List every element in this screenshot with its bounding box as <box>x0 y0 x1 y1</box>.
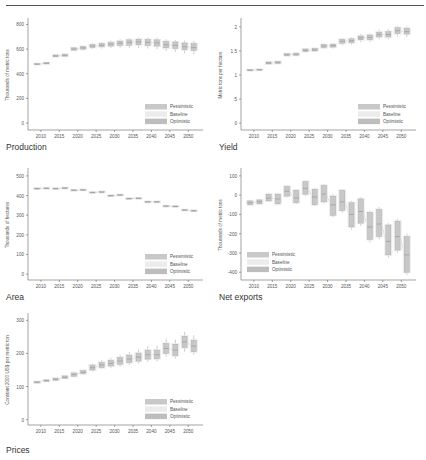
box-6 <box>301 180 312 197</box>
net_exports-plot: -400-300-200-1000100Thousands of metric … <box>213 160 426 295</box>
box-6 <box>88 363 99 371</box>
svg-text:2035: 2035 <box>128 134 139 139</box>
svg-text:Thousands of metric tons: Thousands of metric tons <box>218 199 223 251</box>
svg-text:Baseline: Baseline <box>272 260 290 265</box>
svg-text:2020: 2020 <box>73 429 84 434</box>
caption-prices: Prices <box>6 445 30 455</box>
box-5 <box>292 52 300 56</box>
top-rule <box>6 5 424 6</box>
box-6 <box>88 43 99 49</box>
svg-text:Thousands of metric tons: Thousands of metric tons <box>5 49 10 101</box>
box-16 <box>181 332 192 352</box>
svg-text:Constant 2000 US$ per metric t: Constant 2000 US$ per metric ton <box>5 335 10 405</box>
box-7 <box>311 48 319 52</box>
svg-text:0: 0 <box>21 418 24 423</box>
svg-text:2015: 2015 <box>54 429 65 434</box>
box-0 <box>33 187 44 190</box>
box-12 <box>144 346 155 362</box>
box-4 <box>70 189 81 192</box>
box-9 <box>329 43 337 49</box>
box-14 <box>162 339 173 357</box>
svg-text:Metric tons per hectare: Metric tons per hectare <box>218 51 223 98</box>
svg-text:100: 100 <box>229 174 237 179</box>
svg-text:2050: 2050 <box>396 284 407 289</box>
svg-text:2010: 2010 <box>36 429 47 434</box>
box-2 <box>52 54 63 58</box>
svg-text:2040: 2040 <box>359 134 370 139</box>
box-17 <box>190 335 198 355</box>
box-3 <box>274 193 282 205</box>
box-0 <box>33 381 44 384</box>
svg-text:2025: 2025 <box>304 134 315 139</box>
svg-text:2: 2 <box>234 25 237 30</box>
svg-text:2050: 2050 <box>183 284 194 289</box>
svg-text:2040: 2040 <box>146 134 157 139</box>
svg-text:2030: 2030 <box>109 284 120 289</box>
svg-text:2050: 2050 <box>183 134 194 139</box>
box-15 <box>171 40 179 52</box>
box-11 <box>135 349 143 363</box>
svg-text:2020: 2020 <box>73 284 84 289</box>
svg-text:Optimistic: Optimistic <box>272 267 293 272</box>
svg-text:2045: 2045 <box>165 429 176 434</box>
box-14 <box>162 205 173 208</box>
box-5 <box>292 189 300 204</box>
svg-text:Optimistic: Optimistic <box>383 119 404 124</box>
box-15 <box>171 205 179 208</box>
svg-text:2030: 2030 <box>322 284 333 289</box>
box-15 <box>384 223 392 258</box>
svg-text:2045: 2045 <box>378 284 389 289</box>
box-11 <box>135 37 143 47</box>
box-14 <box>162 39 173 51</box>
box-12 <box>357 34 368 42</box>
svg-text:0: 0 <box>234 121 237 126</box>
svg-text:2030: 2030 <box>322 134 333 139</box>
svg-text:2015: 2015 <box>267 134 278 139</box>
box-4 <box>70 47 81 51</box>
chart-production: 0200400600800Thousands of metric tons201… <box>0 10 213 160</box>
chart-net-exports: -400-300-200-1000100Thousands of metric … <box>213 160 426 310</box>
box-5 <box>79 45 87 50</box>
box-0 <box>33 63 44 66</box>
svg-text:Thousands of hectares: Thousands of hectares <box>5 201 10 248</box>
box-9 <box>116 194 124 197</box>
box-13 <box>153 345 161 361</box>
box-13 <box>366 211 374 243</box>
box-13 <box>153 38 161 49</box>
svg-text:2010: 2010 <box>36 134 47 139</box>
svg-text:Pessimistic: Pessimistic <box>170 254 194 259</box>
box-3 <box>61 187 69 190</box>
svg-text:Optimistic: Optimistic <box>170 414 191 419</box>
box-13 <box>366 34 374 43</box>
svg-text:Baseline: Baseline <box>170 262 188 267</box>
box-1 <box>255 199 263 205</box>
svg-text:100: 100 <box>16 252 24 257</box>
svg-text:Optimistic: Optimistic <box>170 119 191 124</box>
box-15 <box>384 29 392 39</box>
box-6 <box>88 191 99 194</box>
box-2 <box>52 377 63 381</box>
svg-text:Optimistic: Optimistic <box>170 269 191 274</box>
box-11 <box>348 201 356 230</box>
svg-text:2040: 2040 <box>359 284 370 289</box>
svg-text:2025: 2025 <box>304 284 315 289</box>
box-4 <box>283 53 294 57</box>
yield-plot: 0.511.52Metric tons per hectare201020152… <box>213 10 426 145</box>
svg-text:-100: -100 <box>228 212 238 217</box>
box-14 <box>375 30 386 40</box>
box-10 <box>338 38 349 45</box>
svg-text:2035: 2035 <box>128 429 139 434</box>
box-2 <box>265 61 276 65</box>
svg-text:2015: 2015 <box>54 134 65 139</box>
svg-text:2020: 2020 <box>73 134 84 139</box>
svg-text:Pessimistic: Pessimistic <box>170 399 194 404</box>
svg-text:200: 200 <box>16 96 24 101</box>
box-2 <box>265 193 276 202</box>
box-15 <box>171 340 179 359</box>
box-17 <box>403 234 411 275</box>
svg-text:800: 800 <box>16 22 24 27</box>
svg-text:2025: 2025 <box>91 134 102 139</box>
box-0 <box>246 200 257 206</box>
prices-plot: 0100200300Constant 2000 US$ per metric t… <box>0 305 213 440</box>
chart-yield: 0.511.52Metric tons per hectare201020152… <box>213 10 426 160</box>
